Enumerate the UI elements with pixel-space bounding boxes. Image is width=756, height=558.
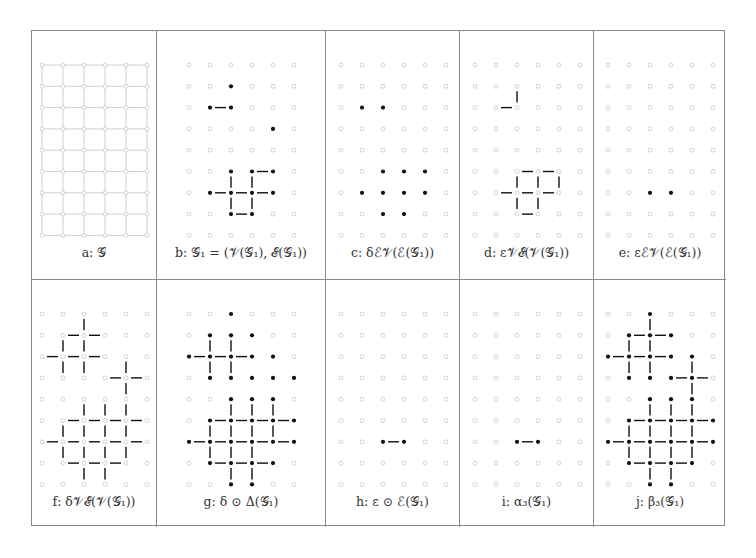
caption-a: a: 𝒢	[32, 245, 156, 261]
caption-b: b: 𝒢₁ = (𝒱(𝒢₁), ℰ(𝒢₁))	[157, 245, 325, 261]
caption-j: j: β₃(𝒢₁)	[594, 494, 726, 510]
panel-e: e: εℰ𝒱(ℰ(𝒢₁))	[593, 31, 726, 279]
grid-graph-f	[32, 280, 156, 528]
panel-a: a: 𝒢	[32, 31, 156, 279]
caption-c: c: δℰ𝒱(ℰ(𝒢₁))	[326, 245, 459, 261]
caption-d: d: ε𝒱ℰ(𝒱(𝒢₁))	[460, 245, 593, 261]
panel-g: g: δ ⊙ Δ(𝒢₁)	[156, 279, 325, 527]
panel-b: b: 𝒢₁ = (𝒱(𝒢₁), ℰ(𝒢₁))	[156, 31, 325, 279]
caption-e: e: εℰ𝒱(ℰ(𝒢₁))	[594, 245, 726, 261]
panel-d: d: ε𝒱ℰ(𝒱(𝒢₁))	[459, 31, 593, 279]
grid-graph-d	[460, 31, 594, 279]
figure-frame: a: 𝒢 b: 𝒢₁ = (𝒱(𝒢₁), ℰ(𝒢₁)) c: δℰ𝒱(ℰ(𝒢₁)…	[31, 30, 725, 526]
panel-j: j: β₃(𝒢₁)	[593, 279, 726, 527]
grid-graph-c	[326, 31, 460, 279]
panel-c: c: δℰ𝒱(ℰ(𝒢₁))	[325, 31, 459, 279]
panel-h: h: ε ⊙ ℰ(𝒢₁)	[325, 279, 459, 527]
grid-graph-e	[594, 31, 727, 279]
panel-f: f: δ𝒱ℰ(𝒱(𝒢₁))	[32, 279, 156, 527]
grid-graph-h	[326, 280, 460, 528]
grid-graph-j	[594, 280, 727, 528]
panel-i: i: α₃(𝒢₁)	[459, 279, 593, 527]
caption-g: g: δ ⊙ Δ(𝒢₁)	[157, 494, 325, 510]
caption-h: h: ε ⊙ ℰ(𝒢₁)	[326, 494, 459, 510]
caption-f: f: δ𝒱ℰ(𝒱(𝒢₁))	[32, 494, 156, 510]
caption-i: i: α₃(𝒢₁)	[460, 494, 593, 510]
grid-graph-g	[157, 280, 326, 528]
grid-graph-i	[460, 280, 594, 528]
grid-graph-b	[157, 31, 326, 279]
grid-graph-a	[32, 31, 156, 279]
